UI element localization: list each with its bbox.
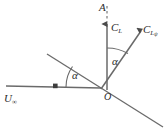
lift-psi-vector-subscript: Lψ: [150, 29, 157, 36]
angle-arc-upper: [107, 48, 128, 54]
diagram-canvas: [0, 0, 167, 131]
angle-label-lower: α: [72, 70, 78, 81]
aerodynamic-angle-diagram: A CL CLψ U∞ O α α: [0, 0, 167, 131]
freestream-subscript: ∞: [12, 98, 17, 105]
axis-label-a: A: [99, 2, 106, 13]
freestream-velocity-label: U∞: [4, 93, 17, 105]
lift-psi-sub-psi: ψ: [154, 31, 157, 37]
lift-psi-vector-label: CLψ: [143, 24, 157, 37]
freestream-symbol: U: [4, 92, 12, 104]
freestream-arrow-marker: [53, 84, 58, 89]
angle-label-upper: α: [112, 56, 118, 67]
lift-vector-label: CL: [111, 22, 122, 34]
origin-label: O: [104, 92, 111, 102]
lift-vector-subscript: L: [118, 27, 122, 34]
